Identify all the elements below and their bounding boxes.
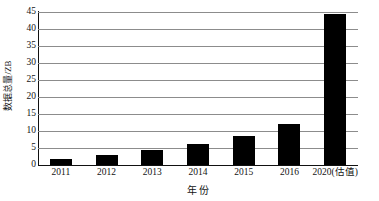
y-axis-tick-label: 10 xyxy=(2,126,36,136)
gridline xyxy=(38,29,358,30)
bar xyxy=(233,136,255,165)
y-axis-tick-label: 30 xyxy=(2,58,36,68)
y-axis-tick-label: 40 xyxy=(2,24,36,34)
gridline xyxy=(38,97,358,98)
x-axis-tick-label: 2020(估值) xyxy=(295,167,375,178)
bar xyxy=(324,14,346,165)
y-axis-tick-labels: 051015202530354045 xyxy=(0,12,36,165)
y-axis-tick-label: 20 xyxy=(2,92,36,102)
y-axis-tick-label: 35 xyxy=(2,41,36,51)
bar-chart: 数据总量/ZB 051015202530354045 2011201220132… xyxy=(0,0,379,201)
x-axis-title: 年 份 xyxy=(38,182,358,197)
y-axis-tick-label: 15 xyxy=(2,109,36,119)
y-axis-tick-label: 45 xyxy=(2,7,36,17)
bar xyxy=(187,144,209,165)
gridline xyxy=(38,63,358,64)
bar xyxy=(141,150,163,165)
gridline xyxy=(38,165,358,166)
gridline xyxy=(38,46,358,47)
x-axis-tick-labels: 2011201220132014201520162020(估值) xyxy=(38,167,358,181)
bar xyxy=(96,155,118,165)
y-axis-tick-label: 5 xyxy=(2,143,36,153)
gridline xyxy=(38,80,358,81)
gridline xyxy=(38,12,358,13)
bar xyxy=(278,124,300,165)
plot-area xyxy=(38,12,358,165)
y-axis-tick-label: 25 xyxy=(2,75,36,85)
gridline xyxy=(38,114,358,115)
gridline xyxy=(38,131,358,132)
bar xyxy=(50,159,72,165)
